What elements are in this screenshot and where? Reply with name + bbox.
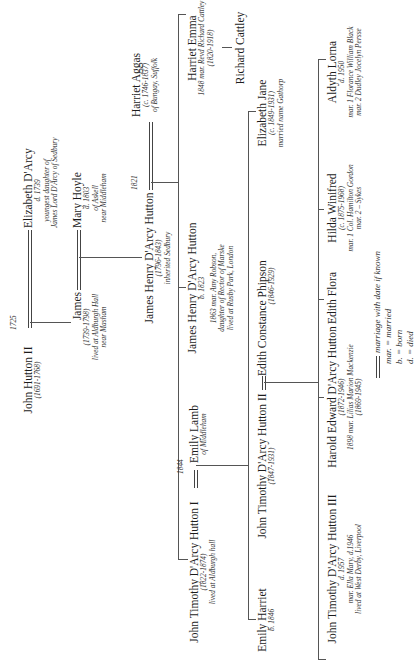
person-note: lived at West Derby, Liverpool bbox=[355, 476, 364, 662]
descent-line bbox=[79, 257, 142, 258]
person-john-timothy-darcy-hutton-ii: John Timothy D'Arcy Hutton II (1847-1931… bbox=[256, 388, 277, 544]
person-james-henry-darcy-hutton-1823: James Henry D'Arcy Hutton b. 1823 1863 m… bbox=[186, 208, 235, 368]
descent-line bbox=[264, 382, 318, 383]
person-richard-cattley: Richard Cattley bbox=[234, 0, 246, 98]
child-tick bbox=[318, 397, 324, 398]
person-note: (1820-1918) bbox=[207, 0, 216, 98]
person-emily-lamb: Emily Lamb of Middleham bbox=[188, 398, 209, 470]
child-tick bbox=[248, 619, 256, 620]
person-note: near Masham bbox=[100, 282, 109, 372]
descent-line bbox=[222, 47, 232, 48]
person-edith-constance-phipson: Edith Constance Phipson (1846-1929) bbox=[256, 196, 277, 376]
person-harriet-emma: Harriet Emma 1848 mar. Revd Richard Catt… bbox=[186, 0, 215, 98]
person-aldyth-lorna: Aldyth Lorna d. 1950 mar. 1 Florance Wil… bbox=[326, 10, 364, 134]
person-note: mar. 2 – Sykes bbox=[355, 156, 364, 260]
legend-born: b. = born bbox=[394, 218, 405, 378]
person-note: mar. 2 Dudley Jocelyn Persse bbox=[355, 10, 364, 134]
marriage-line bbox=[77, 230, 81, 290]
person-note: married name Gathorp bbox=[277, 58, 286, 168]
marriage-symbol bbox=[376, 356, 380, 378]
child-tick bbox=[318, 659, 326, 660]
person-john-timothy-darcy-hutton-iii: John Timothy D'Arcy Hutton III d. 1957 m… bbox=[326, 476, 364, 662]
person-john-hutton-ii: John Hutton II (1691-1768) bbox=[22, 330, 43, 430]
child-tick bbox=[178, 14, 186, 15]
person-elizabeth-darcy: Elizabeth D'Arcy d. 1739 youngest daught… bbox=[22, 118, 60, 228]
person-note: lived at Rusby Park, London bbox=[227, 208, 236, 368]
person-elizabeth-jane: Elizabeth Jane (c. 1849-1931) married na… bbox=[256, 58, 285, 168]
marriage-line bbox=[28, 230, 32, 328]
person-hilda-winifred: Hilda Winifred (c. 1875-1968) mar. 1 Col… bbox=[326, 156, 364, 260]
legend-married: mar. = married bbox=[383, 218, 394, 378]
person-name: Richard Cattley bbox=[234, 0, 246, 98]
family-tree-diagram: John Hutton II (1691-1768) 1725 Elizabet… bbox=[0, 0, 420, 668]
child-tick bbox=[318, 299, 324, 300]
legend-marriage: marriage with date if known bbox=[372, 218, 383, 378]
person-note: (1869-1945) bbox=[355, 322, 364, 472]
descent-line bbox=[196, 465, 248, 466]
child-tick bbox=[318, 59, 326, 60]
marriage-line bbox=[194, 470, 198, 478]
marriage-year: 1725 bbox=[9, 315, 18, 330]
person-note: James Lord D'Arcy of Sedbury bbox=[51, 153, 60, 228]
marriage-line bbox=[262, 376, 266, 390]
marriage-year: 1844 bbox=[176, 459, 185, 474]
person-dates: b. 1846 bbox=[268, 584, 277, 656]
person-harriet-aggas: Harriet Aggas (c. 1746-1837) of Bungay, … bbox=[130, 50, 159, 120]
sibling-bar bbox=[318, 60, 319, 660]
person-note: of Bungay, Suffolk bbox=[151, 50, 160, 120]
person-james: James (1739-1798) lived at Aldburgh Hall… bbox=[71, 282, 109, 372]
person-note: inherited Sedbury bbox=[164, 188, 173, 328]
legend: marriage with date if known mar. = marri… bbox=[372, 218, 416, 378]
person-emily-harriet: Emily Harriet b. 1846 bbox=[256, 584, 277, 656]
marriage-year: 1821 bbox=[130, 175, 139, 190]
child-tick bbox=[178, 559, 188, 560]
child-tick bbox=[318, 209, 324, 210]
legend-died: d. = died bbox=[405, 218, 416, 378]
person-dates: (1847-1931) bbox=[268, 388, 277, 544]
sibling-bar bbox=[248, 112, 249, 620]
person-edith-flora: Edith Flora bbox=[326, 268, 338, 328]
person-note: of Middleham bbox=[200, 398, 209, 470]
person-james-henry-darcy-hutton-1796: James Henry D'Arcy Hutton (1796-1843) in… bbox=[143, 188, 172, 328]
person-name: Elizabeth D'Arcy bbox=[22, 118, 34, 228]
person-note: lived at Aldburgh hall bbox=[209, 482, 218, 662]
person-john-timothy-darcy-hutton-i: John Timothy D'Arcy Hutton I (1822-1874)… bbox=[188, 482, 217, 662]
person-harold-edward-darcy-hutton: Harold Edward D'Arcy Hutton (1872-1946) … bbox=[326, 322, 364, 472]
child-tick bbox=[178, 287, 186, 288]
person-note: near Middleham bbox=[100, 168, 109, 228]
descent-line bbox=[30, 322, 71, 323]
person-name: Edith Flora bbox=[326, 268, 338, 328]
descent-line bbox=[151, 182, 178, 183]
person-dates: (1846-1929) bbox=[268, 196, 277, 376]
marriage-line bbox=[149, 122, 153, 190]
person-dates: (1691-1768) bbox=[34, 330, 43, 430]
person-mary-hoyle: Mary Hoyle d. 1803 of Askell near Middle… bbox=[71, 168, 109, 228]
child-tick bbox=[248, 111, 256, 112]
person-dates: b. 1823 bbox=[198, 208, 207, 368]
